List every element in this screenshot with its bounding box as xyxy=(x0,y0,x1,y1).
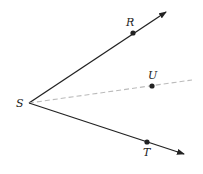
ray-su xyxy=(29,80,192,103)
point-r xyxy=(130,30,135,35)
label-r: R xyxy=(125,16,134,29)
label-u: U xyxy=(148,69,158,82)
label-s: S xyxy=(16,97,24,110)
point-t xyxy=(144,139,149,144)
ray-sr xyxy=(29,12,166,103)
ray-st xyxy=(29,103,184,154)
point-u xyxy=(149,83,154,88)
label-t: T xyxy=(143,146,152,159)
angle-diagram: S R U T xyxy=(0,0,203,174)
